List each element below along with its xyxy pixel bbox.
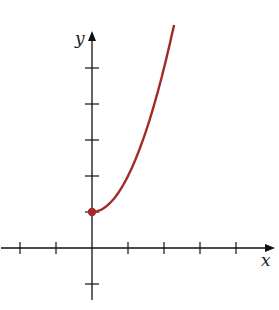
start-point	[88, 208, 96, 216]
chart: x y	[0, 0, 279, 310]
function-curve	[92, 25, 174, 212]
y-axis-label: y	[74, 28, 85, 48]
axes	[1, 33, 273, 300]
x-axis-label: x	[261, 250, 271, 270]
